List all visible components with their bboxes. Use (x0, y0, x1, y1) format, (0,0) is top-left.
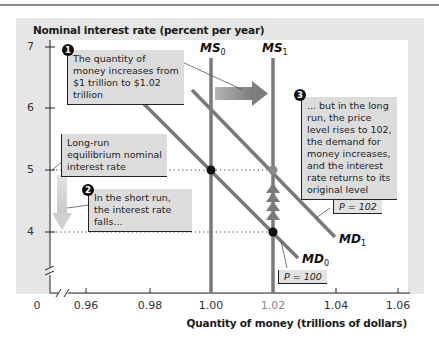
y-tick-7: 7 (27, 40, 34, 53)
y-tick-4: 4 (27, 225, 34, 238)
callout2-leader (67, 205, 89, 208)
down-arrow-icon (52, 175, 72, 230)
long-run-equilibrium-label: Long-run equilibrium nominal interest ra… (61, 134, 167, 177)
callout-2-text: In the short run, the interest rate fall… (94, 192, 171, 227)
x-tick-0: 0 (34, 299, 41, 312)
x-tick-098: 0.98 (138, 299, 163, 312)
x-tick-106: 1.06 (386, 299, 411, 312)
y-axis (45, 40, 55, 293)
callout-1: The quantity of money increases from $1 … (67, 50, 184, 105)
callout-1-text: The quantity of money increases from $1 … (73, 53, 179, 100)
step-1-badge: 1 (62, 44, 74, 56)
ms0-label: MS0 (200, 41, 226, 57)
initial-equilibrium-point (207, 166, 216, 175)
step-3-badge: 3 (294, 89, 306, 101)
y-tick-5: 5 (27, 163, 34, 176)
p100-label: P = 100 (278, 270, 327, 284)
step-2-badge: 2 (82, 184, 94, 196)
x-tick-100: 1.00 (199, 299, 224, 312)
md1-label: MD1 (339, 232, 366, 248)
up-arrows-icon (266, 183, 280, 220)
long-run-equilibrium-point (269, 166, 278, 175)
p102-label: P = 102 (333, 200, 382, 214)
long-run-equilibrium-text: Long-run equilibrium nominal interest ra… (67, 137, 162, 172)
md0-label: MD0 (302, 252, 329, 268)
y-tick-6: 6 (27, 101, 34, 114)
x-tick-104: 1.04 (324, 299, 349, 312)
y-axis-label: Nominal interest rate (percent per year) (33, 24, 264, 36)
x-tick-102: 1.02 (261, 299, 286, 312)
p102-leader (316, 208, 330, 218)
ms1-label: MS1 (262, 41, 288, 57)
x-axis (50, 288, 410, 297)
right-shift-arrow-icon (215, 81, 268, 106)
x-axis-label: Quantity of money (trillions of dollars) (187, 317, 407, 329)
callout-3-text: ... but in the long run, the price level… (307, 100, 392, 195)
short-run-equilibrium-point (269, 228, 278, 237)
x-tick-096: 0.96 (74, 299, 99, 312)
callout-2: In the short run, the interest rate fall… (88, 189, 192, 232)
callout-3: ... but in the long run, the price level… (301, 97, 397, 200)
